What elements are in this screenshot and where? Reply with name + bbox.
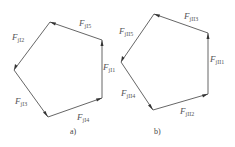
vector-fjii3: [154, 14, 208, 33]
vector-fjii4: [121, 62, 153, 110]
label-fji4: FjI4: [76, 112, 89, 123]
vector-fji4: [48, 98, 102, 117]
arrowhead-icon: [148, 104, 153, 110]
label-fji5: FjI5: [78, 18, 91, 29]
caption-a: a): [70, 127, 77, 136]
vector-fji2: [14, 22, 50, 70]
label-fjii1: FjII1: [209, 54, 224, 65]
arrowhead-icon: [14, 64, 18, 70]
label-fji2: FjI2: [11, 32, 24, 43]
label-fjii4: FjII4: [120, 88, 135, 99]
vector-fji5: [50, 22, 102, 40]
arrowhead-icon: [207, 33, 210, 39]
vector-fjii5: [121, 14, 154, 62]
arrowhead-icon: [43, 111, 48, 117]
label-fjii3: FjII3: [183, 11, 198, 22]
caption-b: b): [154, 127, 161, 136]
label-fji3: FjI3: [14, 96, 27, 107]
label-fjii2: FjII2: [179, 106, 194, 117]
force-polygon-diagrams: FjI5 FjI2 FjI1 FjI3 FjI4 a) FjII3 FjII5 …: [0, 0, 235, 147]
force-polygon-a: FjI5 FjI2 FjI1 FjI3 FjI4 a): [11, 18, 115, 136]
vector-fji3: [14, 70, 48, 117]
force-polygon-b: FjII3 FjII5 FjII1 FjII4 FjII2 b): [118, 11, 224, 136]
arrowhead-icon: [202, 94, 208, 98]
arrowhead-icon: [96, 98, 102, 102]
label-fji1: FjI1: [102, 62, 115, 73]
arrowhead-icon: [50, 22, 56, 26]
arrowhead-icon: [154, 14, 160, 18]
label-fjii5: FjII5: [118, 26, 133, 37]
arrowhead-icon: [101, 40, 104, 46]
